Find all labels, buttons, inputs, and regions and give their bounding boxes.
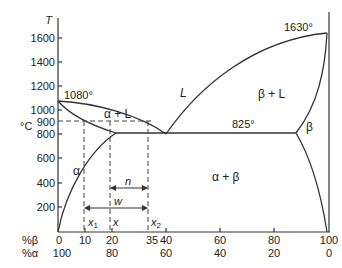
annot-1080: 1080° [64,89,93,101]
svg-text:900: 900 [37,116,55,128]
region-alpha: α [73,164,80,178]
y-axis-label: T [45,14,53,26]
x2-label: x2 [150,216,162,230]
svg-text:20: 20 [106,234,118,246]
y-unit-label: °C [20,120,32,132]
svg-text:1200: 1200 [31,80,55,92]
svg-text:100: 100 [53,247,71,259]
svg-text:80: 80 [268,234,280,246]
svg-text:60: 60 [160,247,172,259]
region-alpha-beta: α + β [212,170,240,184]
x-label-beta: %β [22,234,38,246]
svg-text:1600: 1600 [31,32,55,44]
region-liquid: L [180,86,187,100]
annot-825: 825° [232,118,255,130]
x1-label: x1 [87,216,99,230]
svg-text:40: 40 [160,234,172,246]
w-label: w [114,195,123,207]
svg-text:0: 0 [326,247,332,259]
svg-text:35: 35 [146,234,158,246]
svg-text:20: 20 [268,247,280,259]
svg-text:200: 200 [37,201,55,213]
y-tick-labels: 1600 1400 1200 1000 900 800 600 400 200 [31,32,55,213]
svg-text:1000: 1000 [31,104,55,116]
region-beta: β [306,120,313,134]
region-beta-liquid: β + L [258,87,286,101]
svg-text:80: 80 [106,247,118,259]
svg-text:10: 10 [79,234,91,246]
solvus-alpha [58,133,116,232]
x-tick-labels-alpha: 100 80 60 40 20 0 [53,247,332,259]
n-label: n [125,175,131,187]
x-tick-labels-beta: 0 10 20 35 40 60 80 100 [56,234,338,246]
solvus-beta [296,133,327,232]
svg-text:400: 400 [37,177,55,189]
svg-text:1400: 1400 [31,56,55,68]
x-label: x [112,216,119,228]
svg-text:100: 100 [320,234,338,246]
svg-text:40: 40 [214,247,226,259]
x-label-alpha: %α [22,247,39,259]
svg-text:60: 60 [214,234,226,246]
svg-text:600: 600 [37,152,55,164]
annot-1630: 1630° [284,21,313,33]
svg-text:0: 0 [56,234,62,246]
phase-diagram: 1600 1400 1200 1000 900 800 600 400 200 … [0,0,342,268]
solidus-beta [296,33,327,133]
svg-text:800: 800 [37,128,55,140]
region-alpha-liquid: α + L [104,107,132,121]
